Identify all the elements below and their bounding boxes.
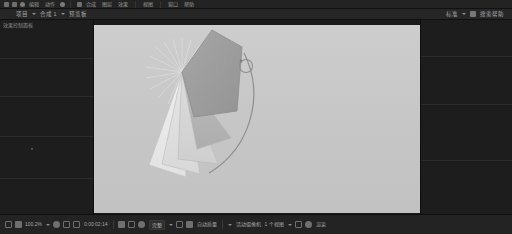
menu-item-effect[interactable]: 效果 xyxy=(118,0,128,9)
snapshot-icon[interactable] xyxy=(63,221,70,228)
menu-item-help[interactable]: 帮助 xyxy=(184,0,194,9)
render-label[interactable]: 渲染 xyxy=(316,220,326,229)
chevron-down-icon-project[interactable] xyxy=(32,13,36,15)
composition-viewer[interactable] xyxy=(94,25,420,213)
region-of-interest-icon[interactable] xyxy=(128,221,135,228)
eye-icon[interactable] xyxy=(138,221,145,228)
work-area: 效果控制面板 xyxy=(0,20,512,214)
preview-icon[interactable] xyxy=(186,221,193,228)
panel-row-divider xyxy=(421,56,512,57)
anchor-point-icon[interactable] xyxy=(240,60,243,63)
mask-toggle-icon[interactable] xyxy=(53,221,60,228)
menu-item-layer[interactable]: 图层 xyxy=(102,0,112,9)
keyframe-marker[interactable] xyxy=(31,148,33,150)
view-count-label[interactable]: 1 个视图 xyxy=(265,220,284,229)
menu-divider-3 xyxy=(160,1,161,8)
status-bar: 100.2% 0:00:02:14 完整 自动质量 活动摄像机 1 个视图 渲染 xyxy=(0,214,512,234)
app-window: 编辑 动作 合成 图层 效果 视图 窗口 帮助 项目 合成 1 预览板 标准 搜… xyxy=(0,0,512,234)
panel-row-divider xyxy=(0,178,93,179)
resolution-dropdown[interactable]: 完整 xyxy=(149,220,165,230)
sector-dark[interactable] xyxy=(182,30,242,117)
menu-item-view[interactable]: 视图 xyxy=(143,0,153,9)
menu-divider-2 xyxy=(135,1,136,8)
panel-title: 效果控制面板 xyxy=(3,22,33,29)
chevron-down-icon-camera[interactable] xyxy=(228,224,232,226)
app-icon-group xyxy=(2,2,26,7)
workspace-label[interactable]: 标准 xyxy=(446,9,458,20)
chevron-down-icon[interactable] xyxy=(60,2,65,7)
chevron-down-icon-zoom[interactable] xyxy=(46,224,50,226)
toolbar-right: 标准 搜索帮助 xyxy=(444,9,512,20)
camera-label[interactable]: 活动摄像机 xyxy=(236,220,261,229)
chevron-down-icon-comp[interactable] xyxy=(61,13,65,15)
tab-composition[interactable]: 合成 1 xyxy=(40,9,57,20)
safe-zone-icon[interactable] xyxy=(15,221,22,228)
toolbar-tabs: 项目 合成 1 预览板 xyxy=(0,9,89,20)
grid-icon[interactable] xyxy=(77,2,82,7)
layers-icon[interactable] xyxy=(20,2,25,7)
status-divider-2 xyxy=(222,220,223,229)
panel-row-divider xyxy=(421,160,512,161)
channel-icon[interactable] xyxy=(73,221,80,228)
menu-item-action[interactable]: 动作 xyxy=(45,0,55,9)
search-icon[interactable] xyxy=(470,11,476,17)
zoom-level-label[interactable]: 100.2% xyxy=(25,220,42,229)
properties-panel[interactable] xyxy=(420,20,512,214)
transparency-grid-icon[interactable] xyxy=(118,221,125,228)
fan-shape-graphic[interactable] xyxy=(94,25,420,213)
chevron-down-icon-resolution[interactable] xyxy=(169,224,173,226)
render-icon[interactable] xyxy=(305,221,312,228)
panel-row-divider xyxy=(0,58,93,59)
menu-item-edit[interactable]: 编辑 xyxy=(29,0,39,9)
search-help-label[interactable]: 搜索帮助 xyxy=(480,9,504,20)
app-logo-icon[interactable] xyxy=(4,2,9,7)
timecode-label[interactable]: 0:00:02:14 xyxy=(84,220,108,229)
status-divider-1 xyxy=(113,220,114,229)
grid-toggle-icon[interactable] xyxy=(5,221,12,228)
timeline-icon[interactable] xyxy=(176,221,183,228)
panel-row-divider xyxy=(421,104,512,105)
settings-icon[interactable] xyxy=(295,221,302,228)
chevron-down-icon-views[interactable] xyxy=(288,224,292,226)
panel-row-divider xyxy=(0,96,93,97)
menu-item-window[interactable]: 窗口 xyxy=(168,0,178,9)
menu-divider xyxy=(70,1,71,8)
menu-item-composition[interactable]: 合成 xyxy=(86,0,96,9)
effect-controls-panel[interactable]: 效果控制面板 xyxy=(0,20,94,214)
tab-project[interactable]: 项目 xyxy=(16,9,28,20)
toolbar: 项目 合成 1 预览板 标准 搜索帮助 xyxy=(0,9,512,20)
quality-label[interactable]: 自动质量 xyxy=(197,220,217,229)
stop-icon[interactable] xyxy=(12,2,17,7)
panel-row-divider xyxy=(0,136,93,137)
chevron-down-icon-workspace[interactable] xyxy=(462,13,466,15)
tab-preview-board[interactable]: 预览板 xyxy=(69,9,87,20)
